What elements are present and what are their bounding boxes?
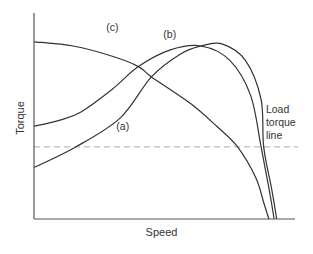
curve-c xyxy=(34,42,269,219)
load-torque-label-line1: Load xyxy=(266,103,290,115)
load-torque-label-line2: torque xyxy=(266,116,296,128)
x-axis-label: Speed xyxy=(146,226,178,238)
curve-a-label: (a) xyxy=(116,120,129,132)
curve-b-label: (b) xyxy=(163,28,176,40)
y-axis-label: Torque xyxy=(14,101,26,135)
curve-c-label: (c) xyxy=(106,21,118,33)
curve-a xyxy=(34,43,277,219)
load-torque-label-line3: line xyxy=(266,129,283,141)
torque-speed-chart: Speed Torque (c) (b) (a) Load torque lin… xyxy=(0,0,313,254)
curve-b xyxy=(34,45,274,219)
plot-area xyxy=(34,42,298,219)
